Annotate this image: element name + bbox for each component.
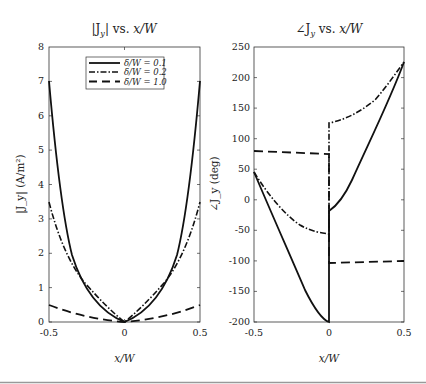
svg-text:150: 150 xyxy=(232,102,250,113)
svg-text:0: 0 xyxy=(38,316,44,327)
left-chart-title: |Jy| vs. x/W xyxy=(92,22,159,38)
svg-text:0: 0 xyxy=(326,327,332,338)
svg-text:3: 3 xyxy=(38,213,44,224)
left-series xyxy=(49,81,200,322)
left-series-delta-0.2 xyxy=(49,202,200,322)
right-y-tick-labels: -200 -150 -100 -50 0 50 100 150 200 250 xyxy=(229,41,250,327)
svg-text:-150: -150 xyxy=(229,285,250,296)
svg-text:-0.5: -0.5 xyxy=(40,327,58,338)
left-y-tick-labels: 0 1 2 3 4 5 6 7 8 xyxy=(38,41,44,327)
svg-text:-50: -50 xyxy=(235,224,250,235)
svg-text:0: 0 xyxy=(244,194,250,205)
legend-item-delta-0.2: δ/W = 0.2 xyxy=(124,67,167,77)
svg-text:7: 7 xyxy=(38,75,44,86)
svg-text:5: 5 xyxy=(38,144,44,155)
right-chart: ∠Jy vs. x/W -200 -150 -100 -50 0 50 100 … xyxy=(208,22,412,364)
right-x-tick-labels: -0.5 0 0.5 xyxy=(245,327,412,338)
left-series-delta-0.1 xyxy=(49,81,200,322)
svg-text:0.5: 0.5 xyxy=(396,327,411,338)
svg-text:50: 50 xyxy=(238,163,250,174)
svg-text:8: 8 xyxy=(38,41,44,52)
left-legend: δ/W = 0.1 δ/W = 0.2 δ/W = 1.0 xyxy=(86,57,167,89)
right-x-axis-label: x/W xyxy=(319,352,340,364)
legend-item-delta-1.0: δ/W = 1.0 xyxy=(124,77,167,87)
svg-text:-0.5: -0.5 xyxy=(245,327,263,338)
svg-text:200: 200 xyxy=(232,72,250,83)
right-y-axis-label: ∠J_y (deg) xyxy=(208,156,221,211)
svg-text:100: 100 xyxy=(232,133,250,144)
svg-text:250: 250 xyxy=(232,41,250,52)
svg-text:-100: -100 xyxy=(229,255,250,266)
left-x-axis-label: x/W xyxy=(114,352,135,364)
left-y-axis-label: |J_y| (A/m²) xyxy=(14,154,28,213)
svg-text:0: 0 xyxy=(121,327,127,338)
svg-text:6: 6 xyxy=(38,110,44,121)
right-series xyxy=(254,62,404,322)
svg-text:2: 2 xyxy=(38,247,44,258)
figure: |Jy| vs. x/W 0 1 2 3 4 5 6 7 8 -0.5 xyxy=(0,0,426,384)
right-chart-title: ∠Jy vs. x/W xyxy=(296,22,365,38)
svg-text:-200: -200 xyxy=(229,316,250,327)
svg-text:1: 1 xyxy=(38,282,44,293)
left-chart: |Jy| vs. x/W 0 1 2 3 4 5 6 7 8 -0.5 xyxy=(14,22,208,364)
left-x-tick-labels: -0.5 0 0.5 xyxy=(40,327,208,338)
svg-text:0.5: 0.5 xyxy=(192,327,207,338)
svg-text:4: 4 xyxy=(38,179,44,190)
